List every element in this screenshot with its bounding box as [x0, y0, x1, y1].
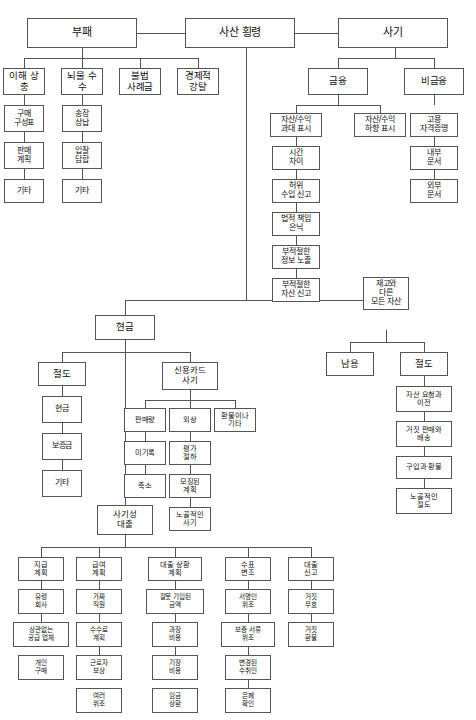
node-corruption[interactable]: 부패	[27, 18, 137, 48]
node-theft-other[interactable]: 기타	[42, 470, 82, 497]
node-root-asset-misappropriation[interactable]: 사산 횡령	[185, 18, 295, 48]
node-corruption-other-1[interactable]: 기타	[4, 179, 44, 203]
node-bribery[interactable]: 뇌물 수수	[61, 68, 103, 95]
node-cash[interactable]: 현금	[95, 315, 155, 340]
node-theft-deposit[interactable]: 보증금	[42, 433, 82, 460]
node-financial[interactable]: 금융	[308, 68, 368, 95]
node-purchasing-receiving[interactable]: 구입과 환불	[396, 456, 452, 479]
node-concealed-checks[interactable]: 은폐 확인	[225, 688, 271, 713]
node-falsified-wages[interactable]: 여러 위조	[76, 688, 122, 713]
node-invoice-kickbacks[interactable]: 송장 상납	[62, 105, 102, 132]
node-asset-revenue-overstated[interactable]: 자산/수익 과대 표시	[270, 113, 322, 137]
node-workers-compensation[interactable]: 근로자 보상	[76, 655, 122, 680]
node-unconcealed-larceny[interactable]: 노골적인 절도	[396, 488, 452, 514]
diagram-canvas: 부패 사산 횡령 사기 이해 상충 뇌물 수수 불법 사례금 경제적 강탈 구매…	[0, 0, 476, 720]
node-sales-volume[interactable]: 판매량	[124, 408, 166, 432]
node-payroll-schemes[interactable]: 급여 계획	[76, 557, 122, 581]
node-conflict-of-interest[interactable]: 이해 상충	[3, 68, 45, 95]
node-billing-schemes[interactable]: 지급 계획	[18, 557, 64, 581]
node-fictitious-expenses[interactable]: 기장 비용	[152, 655, 198, 680]
node-personal-purchases[interactable]: 개인 구매	[18, 655, 64, 680]
node-illegal-gratuities[interactable]: 불법 사례금	[119, 68, 161, 95]
node-altered-payee[interactable]: 변경된 수취인	[225, 655, 271, 680]
node-forged-endorsement[interactable]: 보증 서류 위조	[221, 622, 275, 647]
node-cash-theft[interactable]: 절도	[38, 362, 86, 386]
node-concealed-liabilities[interactable]: 법적 책임 은닉	[272, 212, 320, 236]
node-internal-documents[interactable]: 내부 문서	[410, 146, 458, 170]
node-improper-asset-valuation[interactable]: 부적절한 자산 신고	[272, 278, 320, 302]
node-inventory-other-assets[interactable]: 재고와 다른 모든 자산	[363, 277, 409, 310]
node-sales-schemes[interactable]: 판매 계획	[4, 142, 44, 169]
node-forged-maker[interactable]: 서명인 위조	[225, 589, 271, 614]
node-lapping[interactable]: 모징된 계획	[169, 474, 211, 498]
node-external-documents[interactable]: 외부 문서	[410, 179, 458, 203]
node-false-voids[interactable]: 거짓 무효	[288, 589, 334, 614]
node-multiple-reimbursements[interactable]: 임금 상환	[152, 688, 198, 713]
node-theft-cash[interactable]: 현금	[42, 396, 82, 423]
node-asset-theft[interactable]: 절도	[400, 352, 448, 376]
node-employment-credentials[interactable]: 고용 자격증명	[410, 113, 458, 137]
node-overstated-expenses[interactable]: 과장 비용	[152, 622, 198, 647]
node-corruption-other-2[interactable]: 기타	[62, 179, 102, 203]
node-false-sales-shipping[interactable]: 거짓 판매와 배송	[396, 421, 452, 447]
node-unconcealed[interactable]: 노골적인 사기	[169, 507, 211, 531]
node-improper-disclosures[interactable]: 부적절한 정보 노출	[272, 245, 320, 269]
node-economic-extortion[interactable]: 경제적 강탈	[177, 68, 219, 95]
node-fictitious-revenues[interactable]: 허위 수입 신고	[272, 179, 320, 203]
node-receivables[interactable]: 외상	[169, 408, 211, 432]
node-write-off[interactable]: 평가 절하	[169, 441, 211, 465]
node-check-tampering[interactable]: 수표 변조	[225, 557, 271, 581]
node-understated[interactable]: 축소	[124, 474, 166, 498]
node-asset-req-transfer[interactable]: 자산 요청과 이전	[396, 386, 452, 412]
node-shell-company[interactable]: 유령 회사	[18, 589, 64, 614]
node-asset-revenue-understated[interactable]: 자산/수익 하향 표시	[354, 113, 406, 137]
node-unrecorded[interactable]: 미기록	[124, 441, 166, 465]
node-misuse[interactable]: 남용	[326, 352, 374, 376]
node-fraud[interactable]: 사기	[338, 18, 448, 48]
node-bid-rigging[interactable]: 입찰 담합	[62, 142, 102, 169]
node-non-financial[interactable]: 비금융	[404, 68, 464, 95]
node-mischaracterized-expenses[interactable]: 잘못 기입된 금액	[146, 589, 204, 614]
node-expense-reimbursement[interactable]: 대출 상환 계획	[148, 557, 202, 581]
node-false-refunds[interactable]: 거짓 환불	[288, 622, 334, 647]
node-ghost-employees[interactable]: 가짜 직원	[76, 589, 122, 614]
node-timing-differences[interactable]: 시간 차이	[272, 146, 320, 170]
node-fraudulent-disbursements[interactable]: 사기성 대출	[97, 505, 153, 535]
node-refunds-other[interactable]: 환불이나 기타	[214, 408, 256, 432]
node-non-accomplice-vendor[interactable]: 상관없는 공급 업체	[13, 622, 69, 647]
node-register-disbursements[interactable]: 대출 신고	[288, 557, 334, 581]
node-purchase-schemes[interactable]: 구매 구성표	[4, 105, 44, 132]
node-credit-card-fraud[interactable]: 신용카드 사기	[162, 362, 218, 390]
node-commission-schemes[interactable]: 수수료 계획	[76, 622, 122, 647]
